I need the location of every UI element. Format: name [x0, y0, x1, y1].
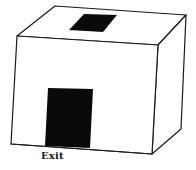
box-diagram	[0, 0, 196, 170]
exit-door	[45, 88, 93, 148]
exit-label: Exit	[41, 150, 64, 161]
